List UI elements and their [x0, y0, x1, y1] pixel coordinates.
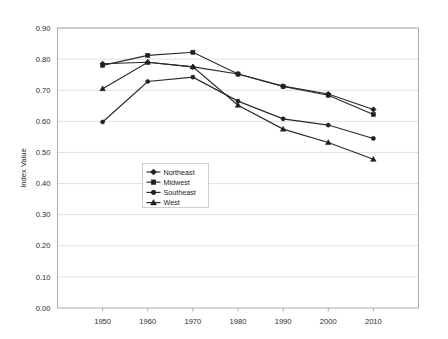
series-southeast [101, 75, 376, 140]
y-axis-title: Index Value [19, 148, 28, 188]
series-line [103, 77, 374, 138]
y-tick-label: 0.80 [36, 55, 51, 64]
legend-label: West [164, 198, 180, 207]
gridlines [58, 28, 419, 277]
y-tick-label: 0.90 [36, 24, 51, 33]
data-point-marker [371, 136, 375, 140]
x-tick-label: 1960 [139, 317, 156, 326]
legend-swatch-marker [151, 190, 156, 195]
data-point-marker [326, 123, 330, 127]
data-point-marker [371, 107, 376, 112]
data-point-marker [191, 75, 195, 79]
legend-swatch-marker [151, 180, 156, 185]
y-tick-label: 0.10 [36, 273, 51, 282]
data-point-marker [236, 72, 240, 76]
y-tick-label: 0.50 [36, 148, 51, 157]
data-point-marker [281, 84, 285, 88]
x-tick-label: 1950 [94, 317, 111, 326]
x-tick-label: 1970 [184, 317, 201, 326]
y-axis-tick-labels: 0.000.100.200.300.400.500.600.700.800.90 [36, 24, 51, 313]
x-axis-tick-marks [103, 308, 374, 312]
data-point-marker [101, 120, 105, 124]
x-tick-label: 2010 [365, 317, 382, 326]
chart-legend: NortheastMidwestSoutheastWest [143, 164, 209, 208]
x-tick-label: 1990 [275, 317, 292, 326]
y-tick-label: 0.40 [36, 179, 51, 188]
legend-label: Northeast [164, 168, 195, 177]
chart-container: 0.000.100.200.300.400.500.600.700.800.90… [0, 0, 448, 339]
data-series-group [100, 50, 376, 161]
data-point-marker [371, 112, 375, 116]
y-tick-label: 0.60 [36, 117, 51, 126]
y-tick-label: 0.30 [36, 210, 51, 219]
legend-label: Southeast [164, 188, 196, 197]
y-tick-label: 0.20 [36, 241, 51, 250]
x-tick-label: 2000 [320, 317, 337, 326]
y-tick-label: 0.70 [36, 86, 51, 95]
data-point-marker [326, 93, 330, 97]
data-point-marker [191, 50, 195, 54]
plot-area-border [58, 28, 419, 308]
data-point-marker [101, 63, 105, 67]
y-tick-label: 0.00 [36, 304, 51, 313]
data-point-marker [281, 117, 285, 121]
x-axis-tick-labels: 1950196019701980199020002010 [94, 317, 382, 326]
data-point-marker [100, 86, 105, 91]
data-point-marker [146, 79, 150, 83]
legend-label: Midwest [164, 178, 190, 187]
x-tick-label: 1980 [230, 317, 247, 326]
data-point-marker [146, 53, 150, 57]
line-chart: 0.000.100.200.300.400.500.600.700.800.90… [0, 0, 448, 339]
